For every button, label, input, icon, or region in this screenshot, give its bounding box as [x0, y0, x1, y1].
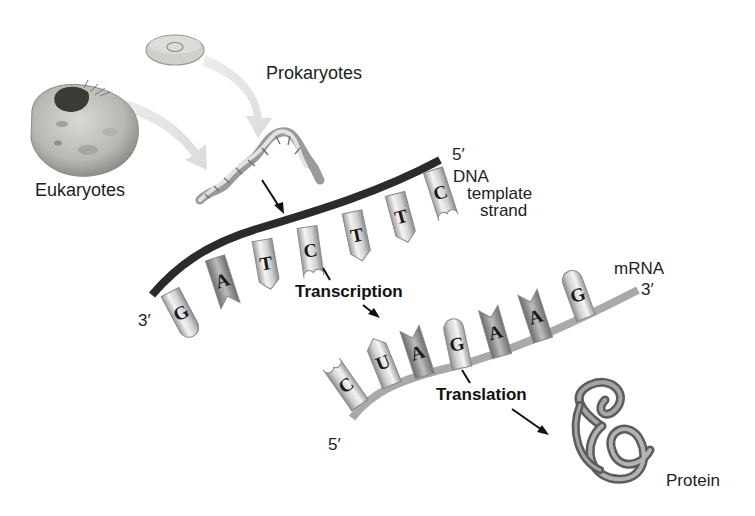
- dna-three-prime-label: 3′: [138, 312, 151, 329]
- base-T: T: [342, 210, 372, 263]
- prokaryote-cell-icon: [146, 35, 204, 65]
- eukaryotes-label: Eukaryotes: [35, 181, 125, 199]
- strand-label: strand: [480, 202, 527, 219]
- dna-five-prime-label: 5′: [452, 146, 465, 163]
- template-label: template: [467, 185, 532, 202]
- mrna-label: mRNA: [614, 260, 664, 277]
- base-U: U: [364, 335, 401, 389]
- base-G: G: [161, 287, 202, 341]
- svg-text:C: C: [302, 239, 319, 262]
- prokaryote-arrow: [203, 55, 272, 138]
- base-G: G: [560, 268, 596, 322]
- dna-helix-icon: [200, 131, 320, 200]
- prokaryotes-label: Prokaryotes: [266, 64, 362, 82]
- protein-icon: [576, 382, 650, 479]
- base-A: A: [400, 325, 434, 379]
- mrna-five-prime-label: 5′: [328, 436, 341, 453]
- diagram-canvas: GATCTTC CUAGAAG: [0, 0, 755, 516]
- base-C: C: [297, 226, 324, 278]
- mrna-three-prime-label: 3′: [641, 281, 654, 298]
- translation-label: Translation: [436, 386, 527, 403]
- base-T: T: [252, 238, 280, 291]
- base-C: C: [323, 358, 368, 411]
- base-A: A: [479, 305, 512, 359]
- base-T: T: [385, 191, 417, 244]
- base-A: A: [518, 289, 552, 343]
- gene-expression-diagram: GATCTTC CUAGAAG Prokaryotes Eukaryot: [0, 0, 755, 516]
- dna-label: DNA: [453, 168, 489, 185]
- base-G: G: [442, 317, 472, 370]
- protein-label: Protein: [666, 472, 720, 489]
- transcription-label: Transcription: [295, 283, 403, 300]
- helix-to-dna-arrow: [262, 180, 284, 214]
- eukaryote-cell-icon: [31, 80, 138, 176]
- base-A: A: [205, 255, 239, 309]
